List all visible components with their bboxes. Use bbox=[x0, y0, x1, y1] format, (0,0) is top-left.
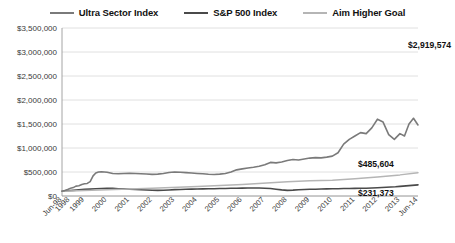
legend-label-sp-500-index: S&P 500 Index bbox=[213, 8, 277, 18]
y-axis-tick-label: $500,000 bbox=[24, 168, 58, 177]
y-axis-tick-label: $3,000,000 bbox=[17, 48, 58, 57]
aim-higher-goal-value: $485,604 bbox=[358, 159, 394, 169]
series-line-ultra-sector-index bbox=[62, 118, 418, 191]
legend-swatch-aim-higher-goal bbox=[303, 12, 327, 14]
y-axis-tick-label: $1,500,000 bbox=[17, 120, 58, 129]
x-axis-tick-label: Jun-14 bbox=[397, 196, 420, 218]
x-axis-tick-label: 2011 bbox=[338, 196, 356, 213]
x-axis-svg: Jun-981998199920002001200220032004200520… bbox=[0, 196, 455, 243]
y-axis-tick-label: $2,000,000 bbox=[17, 96, 58, 105]
line-chart-svg: $3,500,000$3,000,000$2,500,000$2,000,000… bbox=[0, 20, 455, 200]
x-axis-tick-label: 2009 bbox=[293, 196, 311, 213]
x-axis-tick-label: 2007 bbox=[248, 196, 266, 213]
y-axis-tick-label: $2,500,000 bbox=[17, 72, 58, 81]
x-axis-tick-label: 2012 bbox=[361, 196, 379, 213]
chart-container: Ultra Sector Index S&P 500 Index Aim Hig… bbox=[0, 0, 455, 243]
y-axis-tick-label: $3,500,000 bbox=[17, 24, 58, 33]
x-axis-tick-label: 2010 bbox=[315, 196, 333, 213]
gridlines bbox=[62, 28, 418, 196]
legend-item-aim-higher-goal[interactable]: Aim Higher Goal bbox=[303, 8, 405, 18]
x-axis-tick-label: 2001 bbox=[113, 196, 131, 213]
x-axis-tick-label: 2005 bbox=[203, 196, 221, 213]
legend-label-aim-higher-goal: Aim Higher Goal bbox=[332, 8, 405, 18]
y-axis-tick-label: $1,000,000 bbox=[17, 144, 58, 153]
x-axis: Jun-981998199920002001200220032004200520… bbox=[0, 196, 455, 243]
chart-legend: Ultra Sector Index S&P 500 Index Aim Hig… bbox=[0, 5, 455, 21]
x-axis-tick-label: 2006 bbox=[225, 196, 243, 213]
legend-swatch-ultra-sector-index bbox=[50, 12, 74, 14]
x-axis-tick-label: 1999 bbox=[68, 196, 86, 213]
x-axis-tick-label: 2000 bbox=[90, 196, 108, 213]
legend-swatch-sp-500-index bbox=[184, 12, 208, 14]
x-axis-tick-labels: Jun-981998199920002001200220032004200520… bbox=[41, 196, 420, 218]
y-axis-tick-labels: $3,500,000$3,000,000$2,500,000$2,000,000… bbox=[17, 24, 58, 200]
legend-item-ultra-sector-index[interactable]: Ultra Sector Index bbox=[50, 8, 159, 18]
plot-area: $3,500,000$3,000,000$2,500,000$2,000,000… bbox=[0, 20, 455, 200]
axis-lines bbox=[62, 28, 418, 196]
ultra-sector-value: $2,919,574 bbox=[408, 40, 451, 50]
x-axis-tick-label: 2008 bbox=[270, 196, 288, 213]
legend-item-sp-500-index[interactable]: S&P 500 Index bbox=[184, 8, 277, 18]
legend-label-ultra-sector-index: Ultra Sector Index bbox=[79, 8, 159, 18]
data-series bbox=[62, 118, 418, 191]
x-axis-tick-label: 2002 bbox=[135, 196, 153, 213]
x-axis-tick-label: 2003 bbox=[158, 196, 176, 213]
x-axis-tick-label: 2004 bbox=[180, 196, 198, 213]
